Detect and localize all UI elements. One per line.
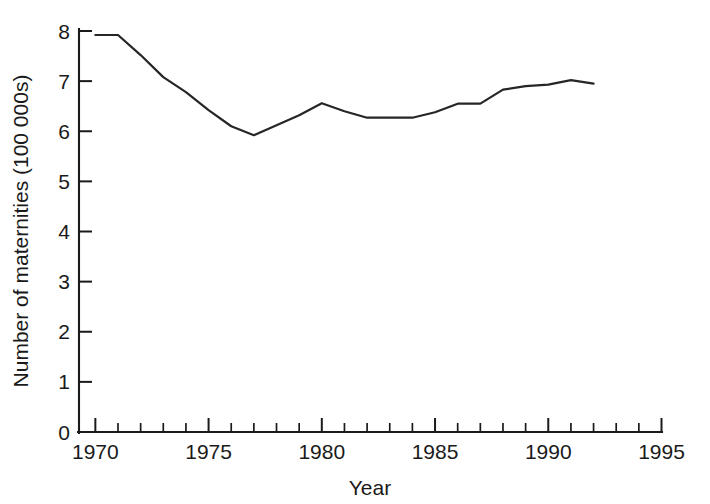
x-tick-label-1995: 1995 (638, 440, 685, 463)
y-tick-label-4: 4 (58, 220, 70, 243)
y-tick-label-2: 2 (58, 320, 70, 343)
y-tick-label-1: 1 (58, 370, 70, 393)
y-tick-label-0: 0 (58, 421, 70, 444)
x-axis-group: 197019751980198519901995 (72, 418, 685, 463)
y-axis-group: 012345678 (58, 20, 92, 444)
x-tick-labels: 197019751980198519901995 (72, 440, 685, 463)
y-tick-label-8: 8 (58, 20, 70, 43)
x-major-tick-marks (95, 418, 661, 432)
data-series-line-maternities (95, 35, 593, 135)
y-tick-label-7: 7 (58, 70, 70, 93)
x-minor-tick-marks (118, 423, 639, 432)
x-tick-label-1980: 1980 (298, 440, 345, 463)
x-axis-title: Year (349, 476, 391, 499)
x-tick-label-1985: 1985 (412, 440, 459, 463)
x-tick-label-1975: 1975 (185, 440, 232, 463)
chart-canvas: 012345678 197019751980198519901995 Year … (0, 0, 710, 504)
y-tick-label-5: 5 (58, 170, 70, 193)
y-tick-label-3: 3 (58, 270, 70, 293)
x-tick-label-1970: 1970 (72, 440, 119, 463)
y-tick-marks (79, 31, 92, 432)
y-tick-labels: 012345678 (58, 20, 70, 444)
y-tick-label-6: 6 (58, 120, 70, 143)
y-axis-title: Number of maternities (100 000s) (9, 75, 32, 388)
x-tick-label-1990: 1990 (525, 440, 572, 463)
maternities-line-chart-figure: 012345678 197019751980198519901995 Year … (0, 0, 710, 504)
